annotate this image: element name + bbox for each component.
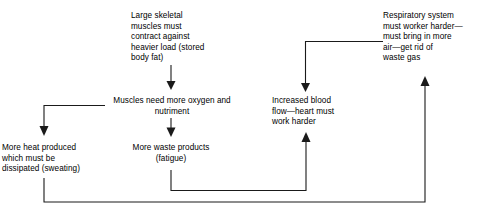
scan-artifact: [0, 0, 481, 6]
node-muscles-oxygen: Muscles need more oxygen and nutriment: [102, 96, 242, 117]
node-skeletal-muscles: Large skeletal muscles must contract aga…: [131, 11, 236, 64]
connector-heat-to-respiratory: [44, 76, 430, 202]
node-more-heat: More heat produced which must be dissipa…: [2, 143, 102, 175]
connector-respiratory-to-blood-flow: [301, 42, 383, 93]
node-waste-products: More waste products (fatigue): [119, 143, 223, 164]
connector-muscles-to-waste: [167, 118, 176, 137]
flowchart-canvas: Large skeletal muscles must contract aga…: [0, 0, 481, 211]
node-respiratory-system: Respiratory system must worker harder— m…: [383, 11, 481, 64]
node-increased-blood-flow: Increased blood flow—heart must work har…: [272, 96, 362, 128]
connector-muscles-to-heat: [40, 106, 106, 137]
connector-skeletal-to-muscles: [167, 65, 176, 90]
